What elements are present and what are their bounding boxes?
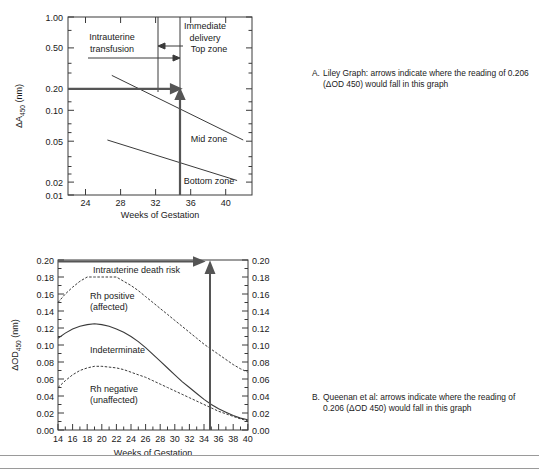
y-tick-label-left: 0.20 <box>36 256 54 266</box>
svg-text:ΔA450 (nm): ΔA450 (nm) <box>14 84 26 128</box>
caption-a-letter: A. <box>312 68 323 79</box>
x-tick-label: 20 <box>97 434 107 444</box>
caption-b-letter: B. <box>312 392 323 403</box>
y-axis-title: ΔA450 (nm) <box>14 84 26 128</box>
x-tick-label: 16 <box>68 434 78 444</box>
y-axis-title: ΔOD450 (nm) <box>10 319 22 371</box>
y-axis-title-unit: (nm) <box>10 319 20 340</box>
curve-rh-negative <box>58 366 248 420</box>
x-axis-tick-labels-a: 24 28 32 36 40 <box>80 198 230 208</box>
x-axis-title: Weeks of Gestation <box>114 448 192 458</box>
y-tick-label-right: 0.16 <box>252 290 270 300</box>
x-tick-label: 32 <box>151 198 161 208</box>
x-tick-label: 26 <box>141 434 151 444</box>
reading-arrows-a <box>68 85 184 195</box>
y-tick-label-right: 0.08 <box>252 358 270 368</box>
y-axis-tick-labels-left-b: 0.00 0.02 0.04 0.06 0.08 0.10 0.12 0.14 … <box>36 256 54 436</box>
band-label-rh-negative: Rh negative <box>90 384 138 394</box>
y-tick-label: 0.20 <box>45 84 63 94</box>
footer-divider-top <box>0 455 539 456</box>
y-tick-label-right: 0.06 <box>252 375 270 385</box>
band-label-rh-positive: Rh positive <box>90 291 135 301</box>
x-axis-title: Weeks of Gestation <box>121 210 199 220</box>
chart-panel-queenan: 0.00 0.02 0.04 0.06 0.08 0.10 0.12 0.14 … <box>0 240 300 465</box>
y-tick-label: 0.50 <box>45 43 63 53</box>
caption-b-text: Queenan et al: arrows indicate where the… <box>323 392 537 415</box>
y-tick-label: 1.00 <box>45 13 63 23</box>
y-tick-label-right: 0.20 <box>252 256 270 266</box>
reading-arrow-vertical-head <box>206 263 214 273</box>
y-tick-label-left: 0.06 <box>36 375 54 385</box>
y-tick-label: 0.10 <box>45 106 63 116</box>
band-label-indeterminate: Indeterminate <box>90 345 145 355</box>
band-label-rh-negative-2: (unaffected) <box>90 395 138 405</box>
y-tick-label-right: 0.12 <box>252 324 270 334</box>
figure-root: 1.00 0.50 0.20 0.10 0.05 0.02 0.01 <box>0 0 539 470</box>
x-tick-label: 40 <box>221 198 231 208</box>
caption-a-text: Liley Graph: arrows indicate where the r… <box>323 68 537 91</box>
y-axis-title-main: ΔA <box>14 116 24 128</box>
band-label-rh-positive-2: (affected) <box>90 302 128 312</box>
y-tick-label-left: 0.12 <box>36 324 54 334</box>
x-tick-label: 34 <box>199 434 209 444</box>
y-tick-label: 0.05 <box>45 137 63 147</box>
y-axis-title-sub: 450 <box>15 340 22 351</box>
x-tick-label: 32 <box>184 434 194 444</box>
band-labels-b: Intrauterine death risk Rh positive (aff… <box>90 265 181 405</box>
y-tick-label-right: 0.14 <box>252 307 270 317</box>
plot-frame-b <box>58 260 248 430</box>
annotation-delivery-line1: Immediate <box>184 21 226 31</box>
y-tick-label-left: 0.16 <box>36 290 54 300</box>
x-tick-label: 14 <box>53 434 63 444</box>
y-axis-ticks-left-b <box>58 260 64 430</box>
y-tick-label-left: 0.10 <box>36 341 54 351</box>
caption-a: A. Liley Graph: arrows indicate where th… <box>312 68 537 91</box>
y-tick-label-right: 0.10 <box>252 341 270 351</box>
x-tick-label: 24 <box>126 434 136 444</box>
y-axis-tick-labels-right-b: 0.00 0.02 0.04 0.06 0.08 0.10 0.12 0.14 … <box>252 256 270 436</box>
y-axis-title-sub: 450 <box>19 105 26 116</box>
zone-label-top: Top zone <box>191 44 228 54</box>
reading-arrow-horizontal-head <box>194 258 203 265</box>
x-tick-label: 22 <box>111 434 121 444</box>
x-tick-label: 38 <box>228 434 238 444</box>
y-axis-title-main: ΔOD <box>10 351 20 371</box>
y-tick-label-right: 0.02 <box>252 409 270 419</box>
curve-indeterminate <box>58 324 248 420</box>
y-tick-label-left: 0.04 <box>36 392 54 402</box>
y-axis-title-unit: (nm) <box>14 84 24 105</box>
y-tick-label-left: 0.18 <box>36 273 54 283</box>
zone-line-mid-bottom <box>107 140 237 181</box>
footer-divider-bottom <box>0 468 539 469</box>
chart-panel-liley: 1.00 0.50 0.20 0.10 0.05 0.02 0.01 <box>0 0 300 220</box>
y-tick-label-right: 0.18 <box>252 273 270 283</box>
x-axis-ticks-b <box>58 424 248 430</box>
x-tick-label: 24 <box>80 198 90 208</box>
x-tick-label: 30 <box>170 434 180 444</box>
annotation-transfusion-line2: transfusion <box>90 44 134 54</box>
zone-label-bottom: Bottom zone <box>184 176 235 186</box>
y-tick-label-left: 0.08 <box>36 358 54 368</box>
svg-text:ΔOD450 (nm): ΔOD450 (nm) <box>10 319 22 371</box>
management-boundaries-a <box>158 17 180 92</box>
y-tick-label-left: 0.02 <box>36 409 54 419</box>
annotation-transfusion-line1: Intrauterine <box>89 32 135 42</box>
liley-chart-svg: 1.00 0.50 0.20 0.10 0.05 0.02 0.01 <box>0 0 300 220</box>
x-tick-label: 36 <box>214 434 224 444</box>
x-tick-label: 36 <box>186 198 196 208</box>
queenan-chart-svg: 0.00 0.02 0.04 0.06 0.08 0.10 0.12 0.14 … <box>0 240 300 465</box>
x-tick-label: 28 <box>116 198 126 208</box>
zone-label-mid: Mid zone <box>191 134 228 144</box>
x-tick-label: 28 <box>155 434 165 444</box>
y-tick-label-right: 0.04 <box>252 392 270 402</box>
x-tick-label: 40 <box>243 434 253 444</box>
reading-arrow-vertical-head <box>176 90 184 99</box>
y-tick-label-left: 0.14 <box>36 307 54 317</box>
y-axis-tick-labels-a: 1.00 0.50 0.20 0.10 0.05 0.02 0.01 <box>45 13 63 201</box>
y-axis-ticks-right-b <box>242 260 248 430</box>
y-tick-label-right: 0.00 <box>252 426 270 436</box>
annotation-delivery-line2: delivery <box>189 33 221 43</box>
x-tick-label: 18 <box>82 434 92 444</box>
band-label-death-risk: Intrauterine death risk <box>93 265 181 275</box>
x-axis-tick-labels-b: 14 16 18 20 22 24 26 28 30 32 34 36 38 4… <box>53 434 253 444</box>
